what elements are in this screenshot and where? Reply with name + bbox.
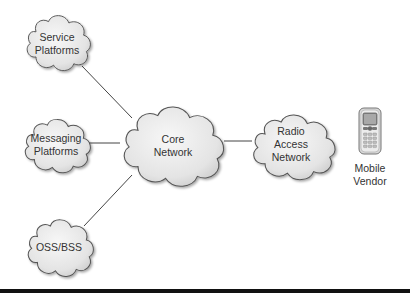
label-line: Service (35, 31, 79, 44)
label-line: OSS/BSS (36, 241, 82, 254)
label-service-platforms: Service Platforms (35, 31, 79, 57)
label-line: Platforms (31, 145, 82, 158)
edge-oss-to-core (84, 175, 132, 226)
label-oss-bss: OSS/BSS (36, 241, 82, 254)
label-core-network: Core Network (154, 133, 193, 159)
label-line: Vendor (353, 175, 386, 188)
label-line: Platforms (35, 44, 79, 57)
label-mobile-vendor: Mobile Vendor (353, 162, 386, 188)
edge-service-to-core (82, 66, 132, 118)
bottom-rule-divider (0, 289, 410, 293)
label-messaging-platforms: Messaging Platforms (31, 132, 82, 158)
label-line: Access (272, 138, 311, 151)
label-line: Messaging (31, 132, 82, 145)
label-line: Network (272, 151, 311, 164)
label-radio-access-network: Radio Access Network (272, 125, 311, 164)
mobile-phone-icon (359, 108, 381, 154)
label-line: Network (154, 146, 193, 159)
label-line: Radio (272, 125, 311, 138)
label-line: Mobile (353, 162, 386, 175)
label-line: Core (154, 133, 193, 146)
